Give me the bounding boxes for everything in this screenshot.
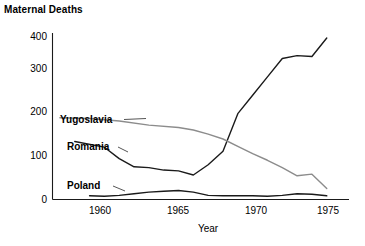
leader-line-romania <box>118 147 128 152</box>
leader-line-poland <box>113 186 125 191</box>
series-line-yugoslavia <box>60 118 327 189</box>
x-tick-label-1970: 1970 <box>245 205 268 216</box>
y-tick-label-100: 100 <box>30 150 47 161</box>
leader-line-yugoslavia <box>124 119 146 120</box>
y-tick-label-0: 0 <box>41 194 47 205</box>
y-tick-label-200: 200 <box>30 106 47 117</box>
y-tick-label-300: 300 <box>30 63 47 74</box>
series-label-romania: Romania <box>67 141 110 152</box>
series-line-romania <box>75 38 327 175</box>
x-tick-label-1975: 1975 <box>317 205 340 216</box>
x-axis-label: Year <box>198 223 219 234</box>
chart-plot-area: 400 300 200 100 0 1960 1965 1970 1975 Ye… <box>0 0 365 246</box>
chart-container: Maternal Deaths 400 300 200 100 0 1960 1… <box>0 0 365 246</box>
y-tick-label-400: 400 <box>30 31 47 42</box>
series-line-poland <box>90 191 327 197</box>
x-tick-label-1965: 1965 <box>167 205 190 216</box>
series-label-yugoslavia: Yugoslavia <box>60 114 113 125</box>
x-tick-label-1960: 1960 <box>89 205 112 216</box>
series-label-poland: Poland <box>67 180 100 191</box>
